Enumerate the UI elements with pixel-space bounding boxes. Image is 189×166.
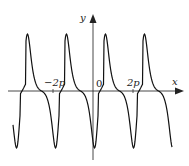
chart: y x 0 −2p 2p xyxy=(0,0,189,166)
y-axis-arrow-icon xyxy=(90,14,97,23)
tick-label-neg-2p: −2p xyxy=(44,78,65,88)
y-axis-label: y xyxy=(80,13,86,23)
tick-label-pos-2p: 2p xyxy=(127,78,140,88)
x-axis-arrow-icon xyxy=(175,88,184,95)
origin-label: 0 xyxy=(96,79,102,89)
x-axis-label: x xyxy=(172,77,178,87)
plot-area xyxy=(0,0,189,166)
